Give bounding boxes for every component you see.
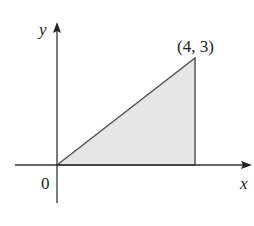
x-axis-label: x [239, 174, 248, 193]
origin-label: 0 [41, 174, 50, 193]
y-axis-label: y [37, 20, 47, 39]
y-axis [53, 22, 61, 203]
shaded-triangle-region [57, 58, 195, 165]
vertex-label: (4, 3) [177, 37, 214, 56]
diagram-canvas: y x 0 (4, 3) [0, 0, 254, 226]
